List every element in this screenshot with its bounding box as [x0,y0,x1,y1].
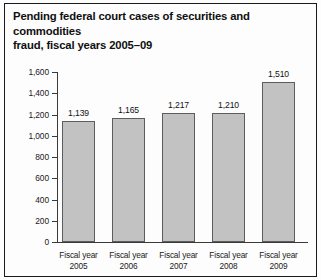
y-axis-line [57,72,58,243]
y-tick-mark [52,93,57,94]
y-tick-label: 1,200 [3,111,49,119]
y-tick-label: 1,000 [3,132,49,140]
y-tick-mark [52,221,57,222]
bar[interactable] [212,113,245,242]
bar-value-label: 1,165 [104,106,153,115]
y-tick-mark [52,200,57,201]
y-tick-label: 0 [3,238,49,246]
y-tick-label: 1,600 [3,68,49,76]
bar-chart-plot: 1,6001,4001,2001,0008006004002000 1,1391… [0,0,321,280]
x-axis-category-label: Fiscal year2006 [102,250,155,271]
category-label-line1: Fiscal year [209,250,247,260]
bar[interactable] [112,118,145,242]
x-axis-line [57,242,308,243]
y-tick-mark [52,242,57,243]
bar-value-label: 1,139 [54,109,103,118]
category-label-line2: 2006 [102,261,155,272]
category-label-line1: Fiscal year [159,250,197,260]
bar[interactable] [62,121,95,242]
category-label-line1: Fiscal year [59,250,97,260]
bar[interactable] [262,82,295,242]
y-tick-label: 200 [3,217,49,225]
bar-value-label: 1,210 [204,101,253,110]
y-tick-mark [52,157,57,158]
y-tick-label: 400 [3,196,49,204]
y-tick-mark [52,178,57,179]
x-axis-category-label: Fiscal year2009 [252,250,305,271]
category-label-line1: Fiscal year [109,250,147,260]
category-label-line2: 2008 [202,261,255,272]
category-label-line2: 2007 [152,261,205,272]
y-tick-mark [52,72,57,73]
bar[interactable] [162,113,195,242]
y-tick-mark [52,136,57,137]
y-tick-label: 1,400 [3,89,49,97]
bar-value-label: 1,217 [154,101,203,110]
y-tick-label: 600 [3,174,49,182]
x-axis-category-label: Fiscal year2008 [202,250,255,271]
bar-value-label: 1,510 [254,70,303,79]
category-label-line2: 2005 [52,261,105,272]
figure-container: Pending federal court cases of securitie… [0,0,321,280]
x-axis-category-label: Fiscal year2007 [152,250,205,271]
x-axis-category-label: Fiscal year2005 [52,250,105,271]
y-tick-label: 800 [3,153,49,161]
category-label-line1: Fiscal year [259,250,297,260]
category-label-line2: 2009 [252,261,305,272]
